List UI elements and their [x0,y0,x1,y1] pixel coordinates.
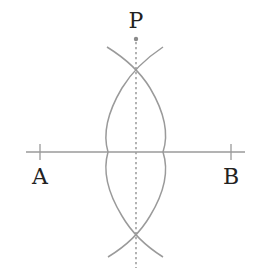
point-p-dot [134,37,138,41]
label-a: A [31,164,49,189]
bisector-diagram: P A B [0,0,264,278]
label-p: P [129,8,144,33]
label-b: B [223,164,239,189]
